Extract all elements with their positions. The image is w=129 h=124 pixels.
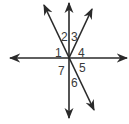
lines-group — [10, 3, 127, 118]
angle-label-1: 1 — [55, 46, 62, 60]
angle-label-6: 6 — [71, 76, 78, 90]
angle-diagram: 1234567 — [0, 0, 129, 124]
angle-label-4: 4 — [78, 46, 85, 60]
angle-label-2: 2 — [61, 30, 68, 44]
angle-label-7: 7 — [58, 64, 65, 78]
angle-label-5: 5 — [79, 61, 86, 75]
angle-label-3: 3 — [71, 30, 78, 44]
